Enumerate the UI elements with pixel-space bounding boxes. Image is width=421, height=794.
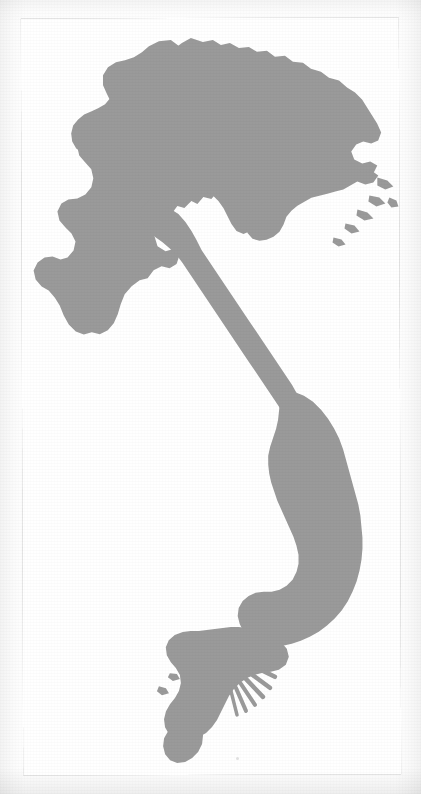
map-canvas (21, 17, 401, 775)
scan-speck-artifact (236, 757, 239, 760)
vietnam-outline-svg (21, 17, 401, 775)
map-plate-page (0, 0, 421, 794)
